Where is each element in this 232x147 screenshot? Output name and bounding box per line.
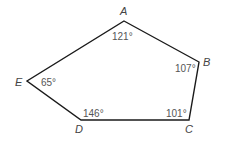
- angle-label-b: 107°: [175, 63, 196, 74]
- vertex-label-c: C: [185, 123, 193, 135]
- angle-label-c: 101°: [166, 108, 187, 119]
- angle-label-a: 121°: [112, 31, 133, 42]
- vertex-label-e: E: [15, 76, 23, 88]
- vertex-label-d: D: [75, 123, 83, 135]
- pentagon-diagram: A B C D E 121° 107° 101° 146° 65°: [0, 0, 232, 147]
- vertex-label-b: B: [203, 56, 210, 68]
- angle-label-d: 146°: [83, 108, 104, 119]
- vertex-label-a: A: [119, 5, 127, 17]
- angle-label-e: 65°: [41, 77, 56, 88]
